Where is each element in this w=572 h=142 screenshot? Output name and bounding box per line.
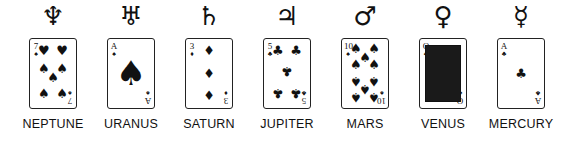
playing-card-a-of-clubs: A♣A♣♣ [497,38,545,109]
mercury-symbol-icon: ☿ [482,1,560,31]
card-index-tl: 3♦ [188,42,196,58]
suit-pip-icon: ♦ [202,67,216,80]
suit-pip-icon: ♠ [367,42,381,55]
playing-card-3-of-diamonds: 3♦3♦♦♦♦ [185,38,233,109]
card-suit-icon: ♣ [500,50,508,58]
suit-pip-icon: ♥ [55,44,69,57]
planet-column-neptune: ♆7♠7♠♥♥♠♠♠♠♠NEPTUNE [14,0,92,142]
suit-pip-icon: ♠ [114,56,148,90]
playing-card-7-of-spades: 7♠7♠♥♥♠♠♠♠♠ [29,38,77,109]
planet-column-saturn: ♄3♦3♦♦♦♦SATURN [170,0,248,142]
planet-column-venus: ♀Q♣Q♣VENUS [404,0,482,142]
card-index-br: A♣ [534,89,542,105]
card-suit-icon: ♦ [188,50,196,58]
neptune-symbol-icon: ♆ [14,1,92,31]
suit-pip-icon: ♦ [202,44,216,57]
uranus-symbol-icon: ♅ [92,1,170,31]
suit-pip-icon: ♠ [37,87,51,100]
mars-symbol-icon: ♂ [326,1,404,31]
card-suit-icon: ♦ [222,89,230,97]
queen-court-figure [425,45,461,102]
suit-pip-icon: ♠ [367,91,381,104]
suit-pip-icon: ♠ [46,71,60,84]
card-index-br: 3♦ [222,89,230,105]
planet-column-mars: ♂10♠10♠♠♠♠♠♠♠♠♠♠♠MARS [326,0,404,142]
card-rank: A [534,97,542,105]
suit-pip-icon: ♠ [349,58,363,71]
suit-pip-icon: ♣ [514,67,528,80]
suit-pip-icon: ♣ [271,44,285,57]
venus-symbol-icon: ♀ [404,1,482,31]
jupiter-symbol-icon: ♃ [248,1,326,31]
card-rank: A [500,42,508,50]
playing-card-q-of-clubs: Q♣Q♣ [419,38,467,109]
suit-pip-icon: ♣ [289,87,303,100]
suit-pip-icon: ♦ [202,89,216,102]
playing-card-5-of-clubs: 5♣5♣♣♣♣♣♣ [263,38,311,109]
suit-pip-icon: ♣ [271,87,285,100]
suit-pip-icon: ♣ [289,44,303,57]
card-rank: A [144,97,152,105]
planet-column-uranus: ♅A♠A♠♠URANUS [92,0,170,142]
planet-label: MERCURY [472,117,570,131]
saturn-symbol-icon: ♄ [170,1,248,31]
playing-card-a-of-spades: A♠A♠♠ [107,38,155,109]
suit-pip-icon: ♥ [37,44,51,57]
card-rank: 3 [188,42,196,50]
suit-pip-icon: ♠ [367,58,381,71]
planet-column-mercury: ☿A♣A♣♣MERCURY [482,0,560,142]
suit-pip-icon: ♣ [280,65,294,78]
playing-card-10-of-spades: 10♠10♠♠♠♠♠♠♠♠♠♠♠ [341,38,389,109]
suit-pip-icon: ♠ [349,91,363,104]
card-index-tl: A♣ [500,42,508,58]
card-rank: 3 [222,97,230,105]
suit-pip-icon: ♠ [55,87,69,100]
planet-column-jupiter: ♃5♣5♣♣♣♣♣♣JUPITER [248,0,326,142]
card-rank: A [110,42,118,50]
